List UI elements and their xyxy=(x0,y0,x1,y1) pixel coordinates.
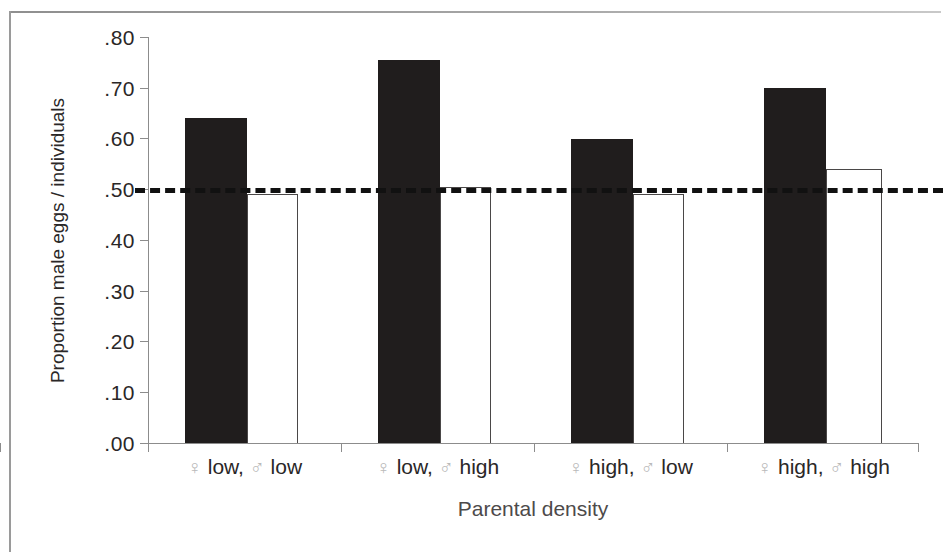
reference-line-050 xyxy=(135,188,943,193)
male-symbol-icon: ♂ xyxy=(829,456,844,478)
bar-white-2 xyxy=(440,187,491,443)
bar-black-2 xyxy=(378,60,440,443)
bar-chart-plot: Proportion male eggs / individuals .80 .… xyxy=(0,0,943,554)
x-axis-tick xyxy=(148,443,149,452)
bar-white-3 xyxy=(633,194,684,443)
chart-page: Proportion male eggs / individuals .80 .… xyxy=(0,0,943,554)
y-tick-label: .50 xyxy=(73,179,135,200)
x-axis-tick xyxy=(727,443,728,452)
x-category-male-level: high xyxy=(850,455,890,478)
y-axis-tick-labels: .80 .70 .60 .50 .40 .30 .20 .10 .00 xyxy=(63,0,135,554)
y-tick-label: .00 xyxy=(73,433,135,454)
bar-black-4 xyxy=(764,88,826,443)
female-symbol-icon: ♀ xyxy=(757,456,772,478)
y-tick-label: .10 xyxy=(73,382,135,403)
x-category-label-4: ♀ high, ♂ high xyxy=(727,455,920,479)
x-axis-title: Parental density xyxy=(148,497,918,521)
x-category-female-level: high, xyxy=(589,455,635,478)
male-symbol-icon: ♂ xyxy=(439,456,454,478)
y-tick-label: .20 xyxy=(73,331,135,352)
y-tick-label: .80 xyxy=(73,27,135,48)
x-category-female-level: low, xyxy=(397,455,433,478)
x-category-label-3: ♀ high, ♂ low xyxy=(534,455,727,479)
bar-black-1 xyxy=(185,118,247,443)
x-category-male-level: high xyxy=(460,455,500,478)
x-category-male-level: low xyxy=(271,455,303,478)
y-tick-label: .60 xyxy=(73,128,135,149)
x-category-label-1: ♀ low, ♂ low xyxy=(148,455,341,479)
bar-black-3 xyxy=(571,139,633,444)
female-symbol-icon: ♀ xyxy=(187,456,202,478)
x-axis-tick xyxy=(918,443,919,452)
bar-white-4 xyxy=(826,169,882,443)
female-symbol-icon: ♀ xyxy=(568,456,583,478)
male-symbol-icon: ♂ xyxy=(250,456,265,478)
y-tick-label: .30 xyxy=(73,281,135,302)
y-tick-label: .40 xyxy=(73,230,135,251)
x-axis-tick xyxy=(0,443,1,452)
x-axis-tick xyxy=(341,443,342,452)
x-category-male-level: low xyxy=(661,455,693,478)
bar-white-1 xyxy=(247,194,298,443)
x-axis-line xyxy=(148,443,918,444)
x-axis-tick xyxy=(534,443,535,452)
y-axis-line xyxy=(148,37,149,444)
male-symbol-icon: ♂ xyxy=(640,456,655,478)
x-category-female-level: high, xyxy=(778,455,824,478)
y-tick-label: .70 xyxy=(73,78,135,99)
x-category-female-level: low, xyxy=(208,455,244,478)
x-category-label-2: ♀ low, ♂ high xyxy=(341,455,534,479)
female-symbol-icon: ♀ xyxy=(376,456,391,478)
